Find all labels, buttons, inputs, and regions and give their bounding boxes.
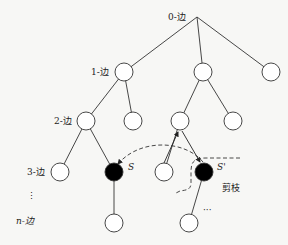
node-l2-b [124, 112, 142, 130]
node-l2-a [77, 112, 95, 130]
tree-nodes [51, 63, 280, 232]
level-label-0: 0-边 [168, 12, 186, 22]
node-l1-a [115, 63, 133, 81]
node-l3-a [51, 163, 69, 181]
node-l4-b [180, 214, 198, 232]
continuation-dots: ··· [203, 205, 212, 215]
node-s [105, 163, 123, 181]
backtrack-arrows [164, 131, 200, 163]
pruning-label: 剪枝 [222, 182, 240, 193]
level-label-1: 1-边 [91, 67, 109, 77]
node-l1-c [262, 63, 280, 81]
node-l3-c [155, 163, 173, 181]
node-s-prime [195, 163, 213, 181]
search-tree-diagram: 0-边 1-边 2-边 3-边 ⋮ n-边 S S' 剪枝 ··· [0, 0, 288, 245]
label-s-prime: S' [217, 162, 226, 172]
vertical-ellipsis: ⋮ [27, 191, 36, 201]
level-label-3: 3-边 [27, 167, 45, 177]
level-label-2: 2-边 [54, 116, 72, 126]
node-l1-b [194, 63, 212, 81]
level-label-n: n-边 [16, 216, 35, 226]
node-l2-d [224, 112, 242, 130]
node-l2-c [171, 112, 189, 130]
node-l4-a [105, 214, 123, 232]
label-s: S [128, 162, 134, 172]
